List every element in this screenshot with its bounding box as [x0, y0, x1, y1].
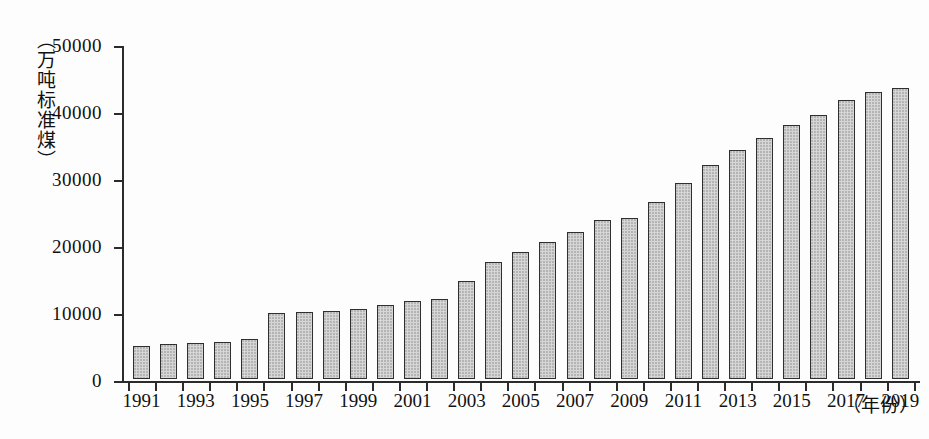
y-tick-label-50000: 50000: [52, 35, 102, 57]
bar-2004: [485, 262, 502, 379]
bar-1999: [350, 309, 367, 379]
x-label-2019: 2019: [881, 390, 919, 412]
bar-1992: [160, 344, 177, 379]
bar-2009: [621, 218, 638, 379]
y-axis-line: [122, 46, 124, 382]
y-tick-label-30000: 30000: [52, 169, 102, 191]
bar-2002: [431, 299, 448, 379]
bar-2013: [729, 150, 746, 379]
y-tick-label-40000: 40000: [52, 102, 102, 124]
x-label-1997: 1997: [285, 390, 323, 412]
bar-1993: [187, 343, 204, 379]
x-label-2013: 2013: [719, 390, 757, 412]
x-label-2007: 2007: [556, 390, 594, 412]
bar-2019: [892, 88, 909, 379]
x-label-1993: 1993: [177, 390, 215, 412]
bar-1997: [296, 312, 313, 379]
bar-2015: [783, 125, 800, 379]
x-label-2009: 2009: [610, 390, 648, 412]
bar-2012: [702, 165, 719, 379]
y-axis-title: （万吨标准煤）: [24, 30, 54, 170]
y-tick-10000: 10000: [114, 314, 123, 316]
x-label-1991: 1991: [123, 390, 161, 412]
bar-1998: [323, 311, 340, 379]
bar-2007: [567, 232, 584, 379]
bar-2001: [404, 301, 421, 379]
x-label-2017: 2017: [827, 390, 865, 412]
y-tick-0: 0: [114, 381, 123, 383]
plot-area: 01000020000300004000050000 1991199319951…: [122, 46, 920, 381]
bar-2011: [675, 183, 692, 379]
bar-2017: [838, 100, 855, 379]
bar-2005: [512, 252, 529, 379]
x-label-2001: 2001: [393, 390, 431, 412]
x-label-2003: 2003: [448, 390, 486, 412]
bar-1996: [268, 313, 285, 379]
bar-2006: [539, 242, 556, 379]
bar-2000: [377, 305, 394, 379]
bar-2018: [865, 92, 882, 379]
y-tick-20000: 20000: [114, 247, 123, 249]
bar-2008: [594, 220, 611, 379]
y-tick-label-0: 0: [92, 370, 102, 392]
y-tick-40000: 40000: [114, 113, 123, 115]
x-label-2005: 2005: [502, 390, 540, 412]
bar-1995: [241, 339, 258, 379]
x-label-1999: 1999: [339, 390, 377, 412]
y-tick-50000: 50000: [114, 46, 123, 48]
y-tick-label-10000: 10000: [52, 303, 102, 325]
bar-chart-figure: （万吨标准煤） （年份） 01000020000300004000050000 …: [0, 0, 929, 439]
x-label-2015: 2015: [773, 390, 811, 412]
bar-1991: [133, 346, 150, 379]
bar-1994: [214, 342, 231, 379]
x-label-1995: 1995: [231, 390, 269, 412]
y-tick-label-20000: 20000: [52, 236, 102, 258]
bar-2016: [810, 115, 827, 379]
y-tick-30000: 30000: [114, 180, 123, 182]
bar-2010: [648, 202, 665, 379]
x-axis-line: [122, 381, 920, 383]
bar-2014: [756, 138, 773, 379]
bar-2003: [458, 281, 475, 379]
x-label-2011: 2011: [665, 390, 702, 412]
